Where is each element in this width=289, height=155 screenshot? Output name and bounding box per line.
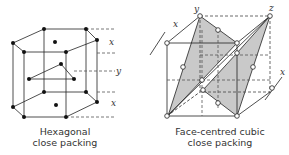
- hcp-label-x-top: x: [109, 37, 114, 47]
- hcp-label-x-bottom: x: [111, 98, 116, 108]
- hcp-caption: Hexagonal close packing: [20, 126, 110, 148]
- hcp-caption-line2: close packing: [20, 137, 110, 148]
- hcp-caption-line1: Hexagonal: [20, 126, 110, 137]
- fcc-label-y: y: [193, 4, 200, 14]
- fcc-label-x-bottom: x: [280, 67, 285, 77]
- hexagonal-close-packing-figure: x y x: [11, 27, 122, 119]
- fcc-label-x-top: x: [173, 19, 178, 29]
- hcp-label-y: y: [115, 66, 122, 76]
- fcc-caption-line2: close packing: [160, 137, 280, 148]
- fcc-caption-line1: Face-centred cubic: [160, 126, 280, 137]
- fcc-caption: Face-centred cubic close packing: [160, 126, 280, 148]
- fcc-label-z: z: [268, 3, 274, 13]
- fcc-close-packing-figure: x y z x: [150, 3, 285, 118]
